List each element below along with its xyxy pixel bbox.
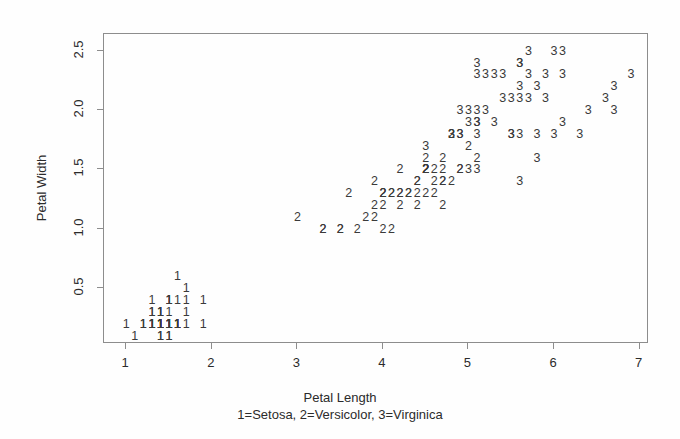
data-point-3: 3 bbox=[533, 80, 540, 93]
data-point-1: 1 bbox=[183, 318, 190, 331]
data-point-2: 2 bbox=[294, 211, 301, 224]
x-tick-label: 6 bbox=[549, 355, 556, 370]
x-tick-label: 3 bbox=[293, 355, 300, 370]
data-point-3: 3 bbox=[610, 80, 617, 93]
data-point-3: 3 bbox=[508, 128, 515, 141]
data-point-3: 3 bbox=[576, 128, 583, 141]
y-tick-label: 1.0 bbox=[71, 212, 86, 242]
data-point-1: 1 bbox=[200, 318, 207, 331]
data-point-2: 2 bbox=[422, 163, 429, 176]
x-tick-label: 2 bbox=[207, 355, 214, 370]
data-point-1: 1 bbox=[157, 329, 164, 342]
y-tick-label: 2.5 bbox=[71, 34, 86, 64]
data-point-3: 3 bbox=[516, 175, 523, 188]
y-tick-mark bbox=[97, 109, 103, 110]
data-point-3: 3 bbox=[474, 163, 481, 176]
data-point-3: 3 bbox=[559, 116, 566, 129]
x-axis-subtitle: 1=Setosa, 2=Versicolor, 3=Virginica bbox=[0, 407, 680, 422]
data-point-1: 1 bbox=[183, 282, 190, 295]
data-point-3: 3 bbox=[456, 128, 463, 141]
data-point-2: 2 bbox=[320, 223, 327, 236]
data-point-3: 3 bbox=[516, 80, 523, 93]
x-tick-mark bbox=[296, 343, 297, 349]
x-axis-title: Petal Length bbox=[0, 390, 680, 405]
data-point-2: 2 bbox=[397, 187, 404, 200]
data-point-2: 2 bbox=[448, 175, 455, 188]
data-point-3: 3 bbox=[422, 139, 429, 152]
data-point-2: 2 bbox=[431, 175, 438, 188]
data-point-2: 2 bbox=[345, 187, 352, 200]
x-tick-mark bbox=[639, 343, 640, 349]
plot-area: 1111111111111111111111111111111111111111… bbox=[104, 34, 647, 342]
data-point-3: 3 bbox=[482, 104, 489, 117]
data-point-3: 3 bbox=[610, 104, 617, 117]
data-point-2: 2 bbox=[354, 223, 361, 236]
data-point-3: 3 bbox=[602, 92, 609, 105]
data-point-3: 3 bbox=[474, 68, 481, 81]
data-point-2: 2 bbox=[362, 211, 369, 224]
data-point-2: 2 bbox=[405, 187, 412, 200]
data-point-2: 2 bbox=[388, 223, 395, 236]
data-point-1: 1 bbox=[148, 318, 155, 331]
data-point-2: 2 bbox=[379, 199, 386, 212]
data-point-3: 3 bbox=[551, 44, 558, 57]
y-tick-mark bbox=[97, 228, 103, 229]
data-point-3: 3 bbox=[516, 128, 523, 141]
data-point-2: 2 bbox=[379, 223, 386, 236]
data-point-1: 1 bbox=[166, 318, 173, 331]
data-point-3: 3 bbox=[465, 163, 472, 176]
data-point-3: 3 bbox=[551, 128, 558, 141]
data-point-1: 1 bbox=[123, 318, 130, 331]
data-point-3: 3 bbox=[516, 92, 523, 105]
data-point-3: 3 bbox=[525, 68, 532, 81]
y-axis-title: Petal Width bbox=[34, 155, 49, 221]
data-point-3: 3 bbox=[628, 68, 635, 81]
data-point-2: 2 bbox=[397, 163, 404, 176]
data-point-1: 1 bbox=[166, 329, 173, 342]
x-tick-label: 7 bbox=[635, 355, 642, 370]
plot-frame: 1111111111111111111111111111111111111111… bbox=[103, 33, 648, 343]
data-point-2: 2 bbox=[422, 151, 429, 164]
data-point-2: 2 bbox=[422, 187, 429, 200]
data-point-2: 2 bbox=[439, 163, 446, 176]
data-point-2: 2 bbox=[388, 187, 395, 200]
data-point-2: 2 bbox=[465, 139, 472, 152]
x-tick-mark bbox=[553, 343, 554, 349]
data-point-3: 3 bbox=[542, 68, 549, 81]
y-tick-mark bbox=[97, 287, 103, 288]
x-tick-label: 5 bbox=[464, 355, 471, 370]
data-point-3: 3 bbox=[465, 116, 472, 129]
data-point-2: 2 bbox=[456, 163, 463, 176]
x-tick-mark bbox=[467, 343, 468, 349]
data-point-2: 2 bbox=[371, 175, 378, 188]
data-point-3: 3 bbox=[491, 116, 498, 129]
y-tick-mark bbox=[97, 50, 103, 51]
data-point-1: 1 bbox=[140, 318, 147, 331]
data-point-1: 1 bbox=[174, 270, 181, 283]
x-tick-mark bbox=[382, 343, 383, 349]
y-tick-mark bbox=[97, 168, 103, 169]
data-point-2: 2 bbox=[431, 187, 438, 200]
chart-page: 1111111111111111111111111111111111111111… bbox=[0, 0, 680, 439]
data-point-3: 3 bbox=[516, 56, 523, 69]
data-point-1: 1 bbox=[174, 294, 181, 307]
data-point-1: 1 bbox=[157, 318, 164, 331]
data-point-3: 3 bbox=[542, 92, 549, 105]
data-point-3: 3 bbox=[491, 68, 498, 81]
data-point-3: 3 bbox=[456, 104, 463, 117]
x-tick-label: 4 bbox=[378, 355, 385, 370]
data-point-3: 3 bbox=[474, 128, 481, 141]
data-point-2: 2 bbox=[439, 175, 446, 188]
data-point-3: 3 bbox=[559, 44, 566, 57]
y-tick-label: 2.0 bbox=[71, 94, 86, 124]
data-point-2: 2 bbox=[371, 211, 378, 224]
data-point-3: 3 bbox=[533, 151, 540, 164]
data-point-1: 1 bbox=[166, 294, 173, 307]
data-point-3: 3 bbox=[448, 128, 455, 141]
data-point-2: 2 bbox=[371, 199, 378, 212]
data-point-3: 3 bbox=[559, 68, 566, 81]
data-point-2: 2 bbox=[414, 199, 421, 212]
data-point-1: 1 bbox=[200, 294, 207, 307]
data-point-3: 3 bbox=[525, 92, 532, 105]
data-point-3: 3 bbox=[499, 68, 506, 81]
